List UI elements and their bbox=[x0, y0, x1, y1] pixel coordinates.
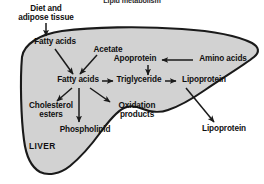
node-triglyceride: Triglyceride bbox=[117, 76, 162, 85]
node-oxidation-products-line2: products bbox=[120, 111, 154, 120]
node-fatty-acids-mid: Fatty acids bbox=[57, 76, 99, 85]
figure-canvas: Lipid metabolism Diet and adipose tissue… bbox=[0, 0, 264, 184]
node-cholesterol-esters-line2: esters bbox=[39, 111, 63, 120]
node-amino-acids: Amino acids bbox=[199, 55, 247, 64]
pathway-illustration bbox=[0, 0, 264, 184]
organ-label-liver: LIVER bbox=[29, 142, 56, 151]
node-lipoprotein-outside: Lipoprotein bbox=[202, 125, 246, 134]
node-diet-adipose-line2: adipose tissue bbox=[18, 14, 73, 23]
node-fatty-acids-top: Fatty acids bbox=[34, 38, 76, 47]
node-apoprotein: Apoprotein bbox=[114, 55, 157, 64]
figure-title: Lipid metabolism bbox=[103, 0, 161, 5]
node-lipoprotein-inside: Lipoprotein bbox=[182, 76, 226, 85]
node-phospholipid: Phospholipid bbox=[60, 126, 111, 135]
